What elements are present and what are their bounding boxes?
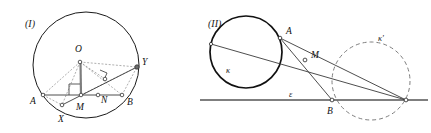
radius-OM	[81, 62, 82, 95]
point-label-Y: Y	[142, 57, 149, 67]
point-A-marker	[41, 93, 45, 97]
chord-AB-fig2	[280, 38, 332, 100]
circle-kappa-prime	[332, 42, 410, 120]
point-label-B: B	[127, 97, 133, 107]
point-X-marker	[60, 103, 64, 107]
point-M-marker	[79, 93, 83, 97]
segment-OY	[80, 62, 137, 67]
figures-canvas: (I)	[0, 0, 431, 133]
point-P-marker	[103, 77, 107, 81]
segment-OB	[80, 62, 122, 95]
point-label-X: X	[57, 114, 65, 124]
point-label-A-fig2: A	[285, 26, 292, 36]
segment-OA	[43, 62, 80, 95]
point-label-A: A	[29, 96, 36, 106]
point-right-intersection-marker	[404, 98, 408, 102]
point-label-M: M	[75, 102, 85, 112]
circle-label-kappa-prime: κ'	[378, 33, 384, 43]
right-angle-at-M	[69, 84, 80, 95]
figure-1-solid-segments	[43, 67, 137, 105]
segment-OX	[62, 62, 80, 105]
point-O-marker	[78, 60, 82, 64]
circle-kappa	[210, 16, 282, 88]
circle-label-kappa: κ	[226, 65, 231, 75]
figure-1-group: (I)	[25, 12, 149, 124]
figure-2-group: (II) A M B κ	[200, 16, 428, 120]
figure-1-circle	[33, 12, 139, 118]
point-M-marker-fig2	[303, 58, 307, 62]
figure-1-dashed-segments	[43, 62, 137, 105]
line-label-epsilon: ε	[289, 89, 293, 99]
point-Y-marker	[135, 65, 139, 69]
point-N-marker	[96, 93, 100, 97]
point-B-marker	[120, 93, 124, 97]
point-B-marker-fig2	[330, 98, 334, 102]
point-label-M-fig2: M	[310, 50, 320, 60]
point-A-marker-fig2	[278, 36, 282, 40]
figure-1-point-markers	[41, 60, 124, 107]
point-label-B-fig2: B	[327, 106, 333, 116]
figure-1-caption: (I)	[25, 18, 36, 30]
point-label-O: O	[75, 44, 82, 54]
point-left-intersection-marker	[209, 42, 212, 45]
point-label-N: N	[100, 95, 108, 105]
geometry-figure-page: (I)	[0, 0, 431, 133]
